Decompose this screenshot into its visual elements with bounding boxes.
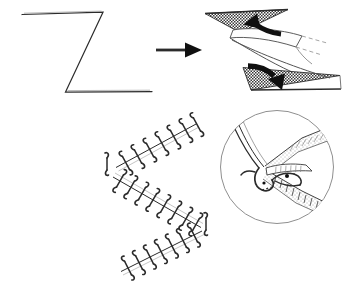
suture-entry-point: [285, 174, 289, 178]
z-plasty-figure: [0, 0, 349, 285]
suture-exit-point: [262, 181, 265, 184]
figure-root: [0, 0, 349, 285]
